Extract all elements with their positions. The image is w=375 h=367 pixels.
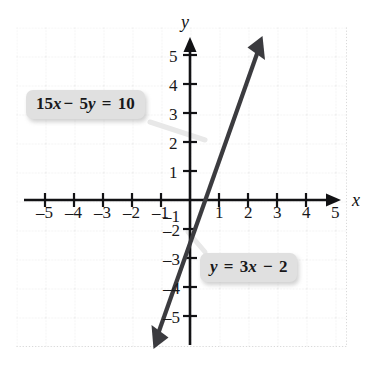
coordinate-plane-svg (0, 0, 375, 367)
standard-minus: − (62, 94, 76, 113)
slope-equals: = (222, 257, 236, 276)
slope-minus: − (261, 257, 275, 276)
standard-coef-x: 15 (36, 94, 53, 113)
standard-coef-y: 5 (79, 94, 88, 113)
x-tick-label-pos4: 4 (302, 204, 311, 221)
y-tick-label-pos3: 3 (169, 106, 178, 123)
equation-callout-slope-intercept: y = 3x − 2 (200, 253, 297, 282)
y-tick-label-neg5: –5 (163, 309, 180, 326)
standard-rhs: 10 (118, 94, 135, 113)
y-tick-label-pos5: 5 (169, 48, 178, 65)
y-tick-label-pos2: 2 (169, 135, 178, 152)
standard-var-x: x (53, 94, 62, 113)
y-tick-label-neg2: –2 (163, 222, 180, 239)
y-tick-label-neg4: –4 (163, 280, 180, 297)
x-axis-label: x (352, 191, 360, 209)
x-tick-label-pos1: 1 (215, 204, 224, 221)
standard-equals: = (100, 94, 114, 113)
slope-var-x: x (248, 257, 257, 276)
x-tick-label-pos2: 2 (244, 204, 253, 221)
x-tick-label-pos5: 5 (331, 204, 340, 221)
x-tick-label-pos3: 3 (273, 204, 282, 221)
y-axis-label: y (181, 13, 189, 31)
y-tick-label-pos1: 1 (169, 164, 178, 181)
slope-coef-x: 3 (240, 257, 249, 276)
slope-var-y: y (210, 257, 218, 276)
y-tick-label-neg3: –3 (163, 251, 180, 268)
x-tick-label-neg4: –4 (65, 204, 82, 221)
x-tick-label-neg5: –5 (36, 204, 53, 221)
slope-constant: 2 (279, 257, 288, 276)
x-tick-label-neg2: –2 (123, 204, 140, 221)
x-tick-label-neg3: –3 (94, 204, 111, 221)
grid-lines (17, 28, 347, 347)
standard-var-y: y (88, 94, 96, 113)
equation-callout-standard-form: 15x− 5y = 10 (26, 90, 145, 119)
y-tick-label-pos4: 4 (169, 77, 178, 94)
graph-figure: –5 –4 –3 –2 –1 1 2 3 4 5 5 4 3 2 1 –1 –2… (0, 0, 375, 367)
